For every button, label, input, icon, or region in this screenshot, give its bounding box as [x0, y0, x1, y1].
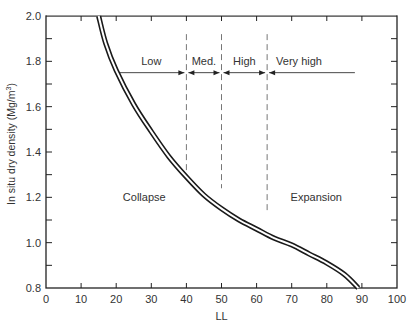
x-tick-label: 40 [180, 293, 192, 305]
x-tick-label: 0 [43, 293, 49, 305]
top-mask [47, 0, 396, 15]
y-tick-label: 2.0 [26, 10, 41, 22]
arrowhead-icon [224, 70, 230, 75]
y-axis-label-end: ) [5, 83, 17, 87]
x-tick-label: 50 [215, 293, 227, 305]
range-label: Med. [192, 55, 216, 67]
arrowhead-icon [214, 70, 220, 75]
y-axis-ticks: 0.81.01.21.41.61.82.0 [26, 10, 397, 294]
chart: 0102030405060708090100 0.81.01.21.41.61.… [0, 0, 417, 333]
x-tick-label: 70 [286, 293, 298, 305]
x-tick-label: 100 [388, 293, 406, 305]
y-tick-label: 0.8 [26, 282, 41, 294]
range-label: Low [141, 55, 161, 67]
region-label-collapse: Collapse [123, 191, 166, 203]
x-tick-label: 30 [145, 293, 157, 305]
range-label: Very high [276, 55, 322, 67]
arrowhead-icon [188, 70, 194, 75]
boundary-curve [47, 0, 396, 288]
arrowhead-icon [269, 70, 275, 75]
y-tick-label: 1.2 [26, 191, 41, 203]
arrowhead-icon [178, 70, 184, 75]
y-axis-label: In situ dry density (Mg/m3) [5, 83, 17, 205]
range-label: High [233, 55, 256, 67]
region-label-expansion: Expansion [291, 191, 342, 203]
y-tick-label: 1.8 [26, 55, 41, 67]
region-labels: CollapseExpansion [123, 191, 342, 203]
x-axis-ticks: 0102030405060708090100 [43, 16, 406, 305]
x-tick-label: 60 [250, 293, 262, 305]
x-tick-label: 80 [321, 293, 333, 305]
arrowhead-icon [259, 70, 265, 75]
x-axis-label: LL [215, 310, 227, 322]
y-axis-label-main: In situ dry density (Mg/m [5, 90, 17, 205]
y-tick-label: 1.0 [26, 237, 41, 249]
x-tick-label: 20 [110, 293, 122, 305]
y-tick-label: 1.4 [26, 146, 41, 158]
y-tick-label: 1.6 [26, 101, 41, 113]
x-tick-label: 10 [75, 293, 87, 305]
x-tick-label: 90 [356, 293, 368, 305]
ll-range-arrows: LowMed.HighVery high [116, 55, 355, 76]
